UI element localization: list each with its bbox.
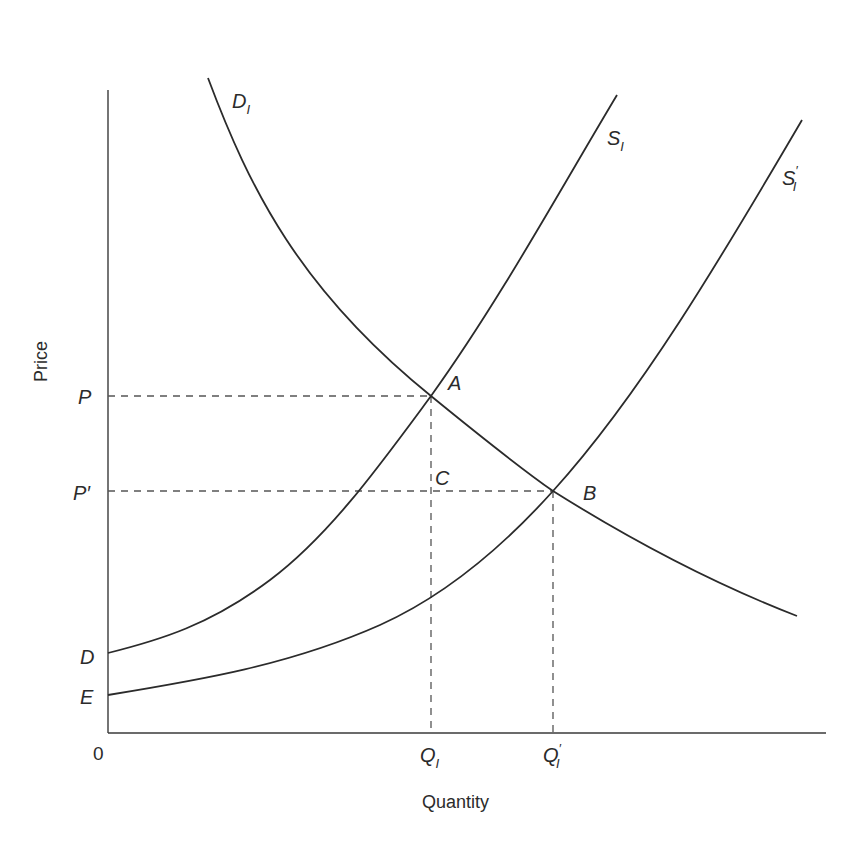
supply-demand-chart: DI SI S′I A B C P P′ D E 0 QI Q′I Quanti…: [0, 0, 854, 845]
label-point-a: A: [447, 372, 461, 394]
supply-curve-si-prime: [108, 120, 802, 695]
tick-p: P: [78, 386, 92, 408]
origin-label: 0: [93, 743, 104, 764]
y-axis-title: Price: [31, 341, 51, 382]
demand-curve-di: [208, 78, 797, 616]
supply-curve-si: [108, 95, 617, 653]
label-point-c: C: [435, 467, 450, 489]
label-si: SI: [607, 127, 624, 154]
label-di: DI: [232, 90, 250, 117]
tick-q-prime: Q′I: [543, 741, 562, 771]
tick-p-prime: P′: [73, 482, 91, 504]
x-axis-title: Quantity: [422, 792, 489, 812]
tick-d: D: [80, 646, 94, 668]
label-si-prime: S′I: [782, 163, 798, 194]
tick-e: E: [80, 686, 94, 708]
label-point-b: B: [583, 482, 596, 504]
tick-q: QI: [420, 744, 440, 771]
